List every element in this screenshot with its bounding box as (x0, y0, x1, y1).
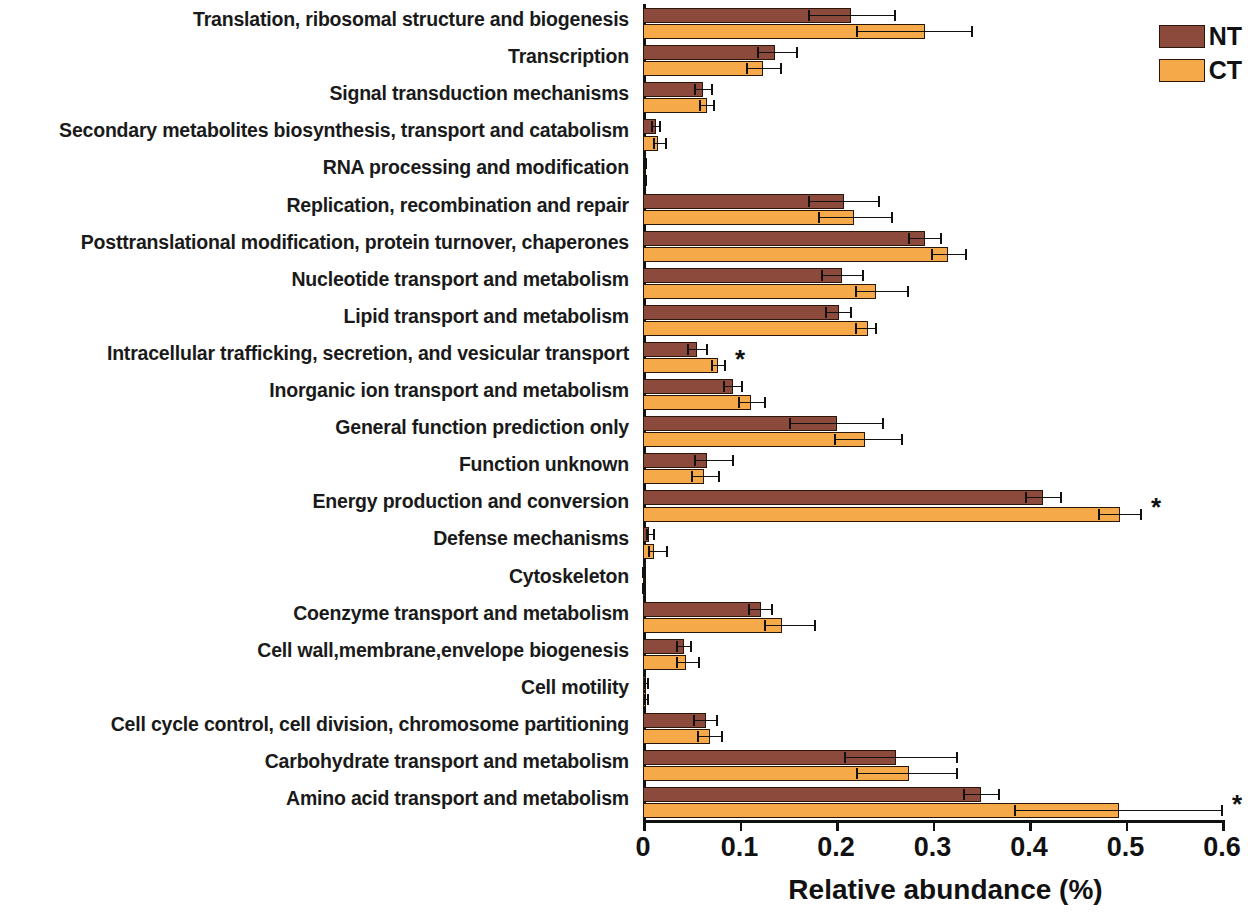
error-bar-cap (796, 47, 798, 58)
x-axis-tick-label: 0 (635, 834, 650, 861)
bar-group-ct (643, 469, 1248, 485)
x-axis-title: Relative abundance (%) (643, 876, 1248, 904)
bar[interactable] (643, 61, 763, 76)
error-bar (857, 31, 972, 32)
bar[interactable] (643, 395, 751, 410)
error-bar-cap (647, 694, 649, 705)
bar[interactable] (643, 602, 761, 617)
error-bar-cap (862, 270, 864, 281)
error-bar-cap (856, 768, 858, 779)
error-bar-cap (645, 175, 647, 186)
category-label: Intracellular trafficking, secretion, an… (107, 344, 629, 364)
error-bar (822, 275, 863, 276)
x-axis-tick (836, 820, 839, 831)
x-axis-tick-label: 0.5 (1107, 834, 1145, 861)
bar-group-ct (643, 395, 1248, 411)
bar[interactable] (643, 618, 782, 633)
error-bar-cap (687, 344, 689, 355)
bar[interactable] (643, 284, 876, 299)
bar[interactable] (643, 45, 775, 60)
error-bar (1015, 810, 1222, 811)
bar-group-ct (643, 61, 1248, 77)
error-bar-cap (764, 397, 766, 408)
bar[interactable] (643, 787, 981, 802)
bar[interactable] (643, 98, 707, 113)
error-bar-cap (907, 286, 909, 297)
error-bar-cap (691, 471, 693, 482)
x-axis-tick-label: 0.3 (914, 834, 952, 861)
error-bar-cap (855, 323, 857, 334)
legend-item-nt[interactable]: NT (1159, 24, 1242, 49)
bar[interactable] (643, 507, 1120, 522)
error-bar-cap (746, 63, 748, 74)
bar-group-nt (643, 194, 1248, 210)
legend-item-ct[interactable]: CT (1159, 58, 1242, 83)
error-bar-cap (1098, 509, 1100, 520)
bar[interactable] (643, 432, 865, 447)
error-bar-cap (648, 546, 650, 557)
bar-group-ct (643, 284, 1248, 300)
x-axis-tick (1126, 820, 1129, 831)
error-bar-cap (676, 657, 678, 668)
error-bar-cap (716, 715, 718, 726)
category-label: Signal transduction mechanisms (329, 84, 629, 104)
error-bar-cap (875, 323, 877, 334)
error-bar-cap (963, 789, 965, 800)
bar-group-nt (643, 119, 1248, 135)
category-label: Function unknown (459, 455, 629, 475)
plot-area: *** (643, 4, 1248, 820)
error-bar-cap (711, 360, 713, 371)
bar[interactable] (643, 379, 733, 394)
category-label: Cytoskeleton (509, 567, 629, 587)
error-bar (809, 15, 895, 16)
bar-group-ct (643, 432, 1248, 448)
bar-group-ct (643, 729, 1248, 745)
bar[interactable] (643, 231, 925, 246)
error-bar-cap (931, 249, 933, 260)
error-bar (964, 794, 999, 795)
bar[interactable] (643, 321, 868, 336)
bar-group-ct (643, 136, 1248, 152)
error-bar-cap (771, 604, 773, 615)
category-label: Coenzyme transport and metabolism (293, 604, 629, 624)
bar[interactable] (643, 305, 839, 320)
error-bar-cap (808, 10, 810, 21)
error-bar-cap (1140, 509, 1142, 520)
x-axis-tick-label: 0.6 (1203, 834, 1241, 861)
legend: NT CT (1159, 24, 1242, 92)
category-label: Posttranslational modification, protein … (81, 233, 629, 253)
bar[interactable] (643, 358, 718, 373)
error-bar-cap (653, 529, 655, 540)
bar-group-ct (643, 618, 1248, 634)
error-bar-cap (965, 249, 967, 260)
error-bar (700, 105, 714, 106)
error-bar-cap (713, 100, 715, 111)
bar-group-nt (643, 750, 1248, 766)
error-bar (790, 423, 884, 424)
category-label: Cell cycle control, cell division, chrom… (111, 715, 629, 735)
bar-group-nt (643, 8, 1248, 24)
error-bar-cap (711, 84, 713, 95)
error-bar-cap (653, 138, 655, 149)
error-bar-cap (808, 196, 810, 207)
bar[interactable] (643, 247, 948, 262)
error-bar (819, 217, 892, 218)
category-label: Nucleotide transport and metabolism (291, 270, 629, 290)
category-label: Inorganic ion transport and metabolism (269, 381, 629, 401)
bar[interactable] (643, 490, 1043, 505)
error-bar-cap (647, 678, 649, 689)
error-bar-cap (825, 307, 827, 318)
error-bar-cap (644, 694, 646, 705)
bar[interactable] (643, 268, 842, 283)
error-bar-cap (644, 678, 646, 689)
bar-group-ct (643, 210, 1248, 226)
error-bar (695, 460, 733, 461)
category-label: Cell wall,membrane,envelope biogenesis (257, 641, 629, 661)
error-bar-cap (764, 620, 766, 631)
x-axis-tick (933, 820, 936, 831)
bar-group-nt (643, 602, 1248, 618)
x-axis: Relative abundance (%) 00.10.20.30.40.50… (643, 820, 1248, 914)
error-bar (1099, 514, 1140, 515)
error-bar-cap (818, 212, 820, 223)
error-bar (932, 254, 967, 255)
